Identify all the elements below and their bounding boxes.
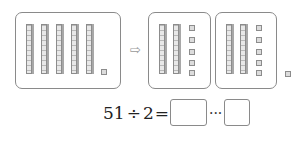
tens-rod-icon xyxy=(173,24,179,74)
divide-operator: ÷ xyxy=(127,103,141,123)
division-equation: 51 ÷ 2 = ··· xyxy=(103,99,250,126)
arrow-right-icon: ⇨ xyxy=(130,42,141,57)
remainder-answer-box[interactable] xyxy=(224,99,250,126)
divided-group-frame-1 xyxy=(148,12,211,89)
remainder-separator: ··· xyxy=(209,105,222,121)
ones-cube-icon xyxy=(256,37,262,43)
remainder-cube-icon xyxy=(285,71,291,77)
ones-cube-icon xyxy=(256,49,262,55)
tens-rod-icon xyxy=(26,24,32,74)
ones-cube-icon xyxy=(101,69,107,75)
ones-cube-icon xyxy=(189,60,195,66)
quotient-answer-box[interactable] xyxy=(170,99,207,126)
ones-cube-icon xyxy=(189,37,195,43)
tens-rod-icon xyxy=(86,24,92,74)
tens-rod-icon xyxy=(56,24,62,74)
ones-cube-icon xyxy=(189,49,195,55)
ones-cube-icon xyxy=(189,25,195,31)
divisor: 2 xyxy=(143,103,154,123)
ones-cube-icon xyxy=(256,60,262,66)
original-group-frame xyxy=(15,12,121,89)
tens-rod-icon xyxy=(71,24,77,74)
tens-rod-icon xyxy=(240,24,246,74)
tens-rod-icon xyxy=(41,24,47,74)
ones-cube-icon xyxy=(256,25,262,31)
divided-group-frame-2 xyxy=(215,12,277,89)
dividend: 51 xyxy=(103,103,125,123)
equals-sign: = xyxy=(155,103,169,123)
ones-cube-icon xyxy=(189,70,195,76)
tens-rod-icon xyxy=(159,24,165,74)
tens-rod-icon xyxy=(226,24,232,74)
ones-cube-icon xyxy=(256,70,262,76)
